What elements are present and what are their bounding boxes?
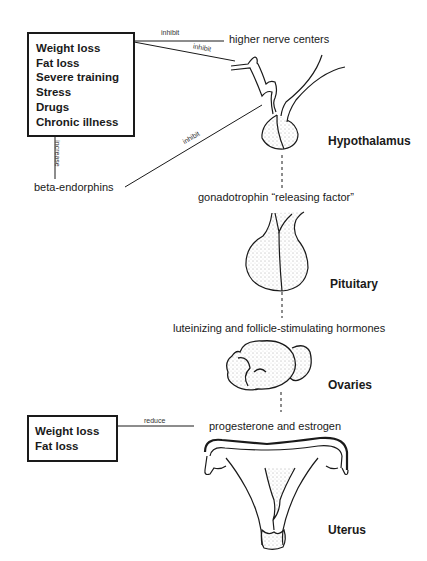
- pituitary-illustration: [246, 212, 308, 291]
- risk-factor-chronic-illness: Chronic illness: [36, 115, 133, 130]
- inhibit-line-hypothalamus-top: [134, 42, 235, 61]
- factor-weight-loss: Weight loss: [35, 424, 116, 439]
- risk-factor-drugs: Drugs: [36, 100, 133, 115]
- node-higher-nerve-centers: higher nerve centers: [229, 33, 329, 45]
- edge-label-increase: increase: [54, 140, 61, 166]
- organ-label-pituitary: Pituitary: [330, 277, 378, 291]
- node-lh-fsh: luteinizing and follicle-stimulating hor…: [173, 322, 385, 334]
- organ-label-ovaries: Ovaries: [328, 378, 372, 392]
- edge-label-inhibit-1: inhibit: [161, 29, 179, 36]
- risk-factor-fat-loss: Fat loss: [36, 56, 133, 71]
- inhibit-line-beta-endorphins: [125, 105, 262, 187]
- organ-label-uterus: Uterus: [328, 523, 366, 537]
- factor-fat-loss: Fat loss: [35, 439, 116, 454]
- organ-label-hypothalamus: Hypothalamus: [328, 134, 411, 148]
- node-beta-endorphins: beta-endorphins: [34, 181, 114, 193]
- uterus-illustration: [205, 438, 348, 550]
- ovaries-illustration: [227, 341, 312, 390]
- risk-factor-severe-training: Severe training: [36, 70, 133, 85]
- risk-factors-box: Weight loss Fat loss Severe training Str…: [27, 32, 135, 137]
- edge-label-reduce: reduce: [144, 417, 165, 424]
- risk-factor-stress: Stress: [36, 85, 133, 100]
- node-gonadotrophin: gonadotrophin “releasing factor”: [198, 191, 354, 203]
- node-progesterone-estrogen: progesterone and estrogen: [209, 420, 341, 432]
- hormone-reduction-box: Weight loss Fat loss: [27, 415, 118, 462]
- risk-factor-weight-loss: Weight loss: [36, 41, 133, 56]
